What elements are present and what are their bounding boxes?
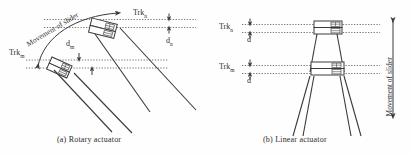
rotary-track-label-upper: Trkn [133,8,147,19]
rotary-dim-label-lower: dm [66,39,74,50]
rotary-dim-label-upper: dn [166,36,173,47]
rotary-slider-head-upper [88,18,117,38]
linear-slider-head-lower [311,62,344,75]
rotary-arm-lower [54,70,132,133]
rotary-arm-upper [95,28,196,112]
rotary-caption: (a) Rotary actuator [57,135,121,144]
figure-actuator-comparison: Trkn Trkm dn dm Movement of slider Trkn … [0,0,412,155]
linear-caption: (b) Linear actuator [263,135,327,144]
linear-track-lines-upper [242,25,380,33]
rotary-movement-arc [38,13,118,66]
rotary-dim-arrow-lower [79,53,92,75]
linear-slider-head-upper [314,21,342,34]
linear-dim-label-lower: d [247,76,251,85]
linear-dim-label-upper: d [247,35,251,44]
linear-actuator-arms [293,34,361,136]
linear-panel-graphics [242,19,393,137]
linear-track-label-lower: Trkm [219,62,235,73]
linear-movement-label: Movement of slider [385,57,394,116]
rotary-track-label-lower: Trkm [9,48,25,59]
linear-track-label-upper: Trkn [219,22,233,33]
